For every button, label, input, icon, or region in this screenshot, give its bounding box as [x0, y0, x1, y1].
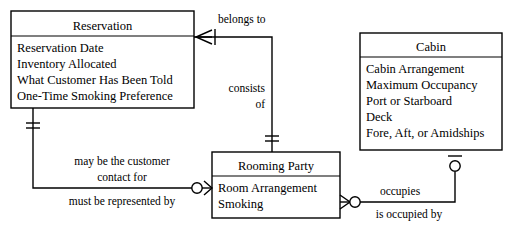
- relationship-label-customer-contact-line2: contact for: [97, 171, 147, 183]
- entity-cabin-title: Cabin: [416, 40, 447, 54]
- entity-cabin-attribute: Port or Starboard: [366, 94, 453, 108]
- entity-rooming-party-title: Rooming Party: [238, 159, 315, 173]
- cardinality-circle-optional-contact: [192, 183, 202, 193]
- relationship-label-consists-of-line2: of: [255, 98, 265, 110]
- entity-reservation-attribute: One-Time Smoking Preference: [17, 89, 173, 103]
- relationship-customer-contact[interactable]: may be the customer contact for must be …: [26, 108, 212, 208]
- entity-cabin-attribute: Deck: [366, 110, 393, 124]
- relationship-belongs-to-consists-of[interactable]: belongs to consists of: [194, 13, 279, 152]
- entity-rooming-party-attribute: Room Arrangement: [218, 181, 317, 195]
- entity-reservation[interactable]: Reservation Reservation Date Inventory A…: [11, 11, 194, 108]
- entity-reservation-attribute: What Customer Has Been Told: [17, 73, 174, 87]
- entity-cabin-attribute: Cabin Arrangement: [366, 62, 465, 76]
- entity-cabin[interactable]: Cabin Cabin Arrangement Maximum Occupanc…: [360, 33, 502, 150]
- entity-reservation-attribute: Reservation Date: [17, 41, 104, 55]
- relationship-label-consists-of-line1: consists: [229, 82, 266, 94]
- relationship-label-customer-contact-line1: may be the customer: [74, 155, 170, 168]
- entity-rooming-party[interactable]: Rooming Party Room Arrangement Smoking: [212, 152, 340, 218]
- relationship-label-is-occupied-by: is occupied by: [376, 208, 443, 221]
- entity-rooming-party-attribute: Smoking: [218, 197, 264, 211]
- entity-reservation-title: Reservation: [73, 19, 133, 33]
- entity-reservation-attribute: Inventory Allocated: [17, 57, 117, 71]
- cardinality-circle-optional-occupies: [350, 197, 360, 207]
- entity-cabin-attribute: Fore, Aft, or Amidships: [366, 126, 485, 140]
- entity-cabin-attribute: Maximum Occupancy: [366, 78, 478, 92]
- er-diagram-canvas: Reservation Reservation Date Inventory A…: [0, 0, 510, 236]
- relationship-occupies[interactable]: occupies is occupied by: [340, 156, 462, 221]
- relationship-label-represented-by: must be represented by: [69, 195, 176, 208]
- relationship-label-belongs-to: belongs to: [218, 13, 266, 26]
- relationship-label-occupies: occupies: [380, 185, 421, 198]
- cardinality-circle-optional-cabin: [450, 161, 460, 171]
- relationship-line-belongs-to: [194, 37, 272, 152]
- er-diagram: Reservation Reservation Date Inventory A…: [0, 0, 510, 236]
